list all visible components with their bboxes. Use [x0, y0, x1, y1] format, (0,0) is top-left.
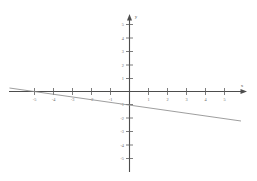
y-axis-arrow-icon — [127, 14, 132, 21]
y-tick-label: 3 — [122, 49, 124, 54]
x-tick-label: -5 — [33, 97, 37, 102]
x-tick-label: 4 — [204, 97, 207, 102]
x-axis-arrow-icon — [241, 89, 248, 94]
x-tick-label: 3 — [185, 97, 187, 102]
y-tick-label: -2 — [120, 116, 124, 121]
y-tick-label: 2 — [122, 63, 124, 68]
graph-figure: -5 -4 -3 -2 -1 1 2 3 4 5 -5 -4 -3 -2 -1 … — [0, 0, 257, 181]
y-tick-label: 5 — [122, 22, 124, 27]
x-tick-label: -4 — [52, 97, 56, 102]
x-tick-label: 2 — [166, 97, 168, 102]
x-axis-label: x — [241, 83, 244, 88]
x-tick-label: 1 — [147, 97, 149, 102]
y-tick-label: 4 — [122, 36, 125, 41]
y-tick-label: -1 — [120, 102, 124, 107]
plot-canvas: -5 -4 -3 -2 -1 1 2 3 4 5 -5 -4 -3 -2 -1 … — [0, 0, 257, 181]
y-tick-label: -3 — [120, 129, 124, 134]
x-tick-label: -1 — [109, 97, 113, 102]
y-tick-label: -4 — [120, 143, 124, 148]
y-tick-label: 1 — [122, 76, 124, 81]
x-tick-label: 5 — [223, 97, 225, 102]
y-axis-label: y — [135, 14, 138, 19]
x-tick-label: -2 — [90, 97, 94, 102]
data-line-series — [10, 88, 242, 121]
y-tick-label: -5 — [120, 156, 124, 161]
